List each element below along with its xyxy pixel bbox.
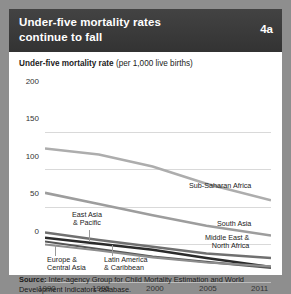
series-label-east-asia-pacific: East Asia & Pacific [72, 211, 102, 228]
leader-line-east-asia-pacific [89, 230, 90, 242]
series-label-text-line2: Central Asia [47, 264, 86, 272]
leader-line-latin-america-caribbean [112, 245, 113, 256]
series-label-text-line2: & Caribbean [104, 264, 148, 272]
figure-title: Under-five mortality rates continue to f… [19, 15, 219, 45]
source-body: Inter-agency Group for Child Mortality E… [19, 275, 244, 294]
y-tick-50: 50 [9, 189, 39, 198]
series-label-text: Sub-Saharan Africa [189, 182, 251, 190]
y-tick-100: 100 [9, 152, 39, 161]
chart-panel: Under-five mortality rate (per 1,000 liv… [9, 52, 282, 275]
series-label-text-line2: North Africa [205, 242, 249, 250]
y-tick-150: 150 [9, 114, 39, 123]
figure-title-line1: Under-five mortality rates [19, 15, 219, 30]
chart-subtitle-units: (per 1,000 live births) [114, 59, 193, 68]
line-sub-saharan-africa [45, 149, 271, 201]
figure-title-line2: continue to fall [19, 30, 219, 45]
figure-header: Under-five mortality rates continue to f… [9, 9, 282, 52]
source-note: Source: Inter-agency Group for Child Mor… [19, 275, 269, 294]
figure-number-badge: 4a [260, 23, 273, 35]
series-label-latin-america-caribbean: Latin America & Caribbean [104, 256, 148, 273]
series-label-sub-saharan-africa: Sub-Saharan Africa [189, 182, 251, 190]
series-label-text: South Asia [217, 220, 251, 228]
series-label-europe-central-asia: Europe & Central Asia [47, 256, 86, 273]
figure-card: Under-five mortality rates continue to f… [9, 9, 282, 275]
source-label: Source: [19, 275, 47, 284]
chart-subtitle: Under-five mortality rate (per 1,000 liv… [19, 59, 193, 68]
series-label-south-asia: South Asia [217, 220, 251, 228]
series-label-text-line2: & Pacific [72, 219, 102, 227]
leader-line-europe-central-asia [55, 245, 56, 256]
y-tick-0: 0 [9, 227, 39, 236]
y-tick-200: 200 [9, 77, 39, 86]
series-label-middle-east-north-africa: Middle East & North Africa [205, 234, 249, 251]
chart-subtitle-bold: Under-five mortality rate [19, 59, 114, 68]
